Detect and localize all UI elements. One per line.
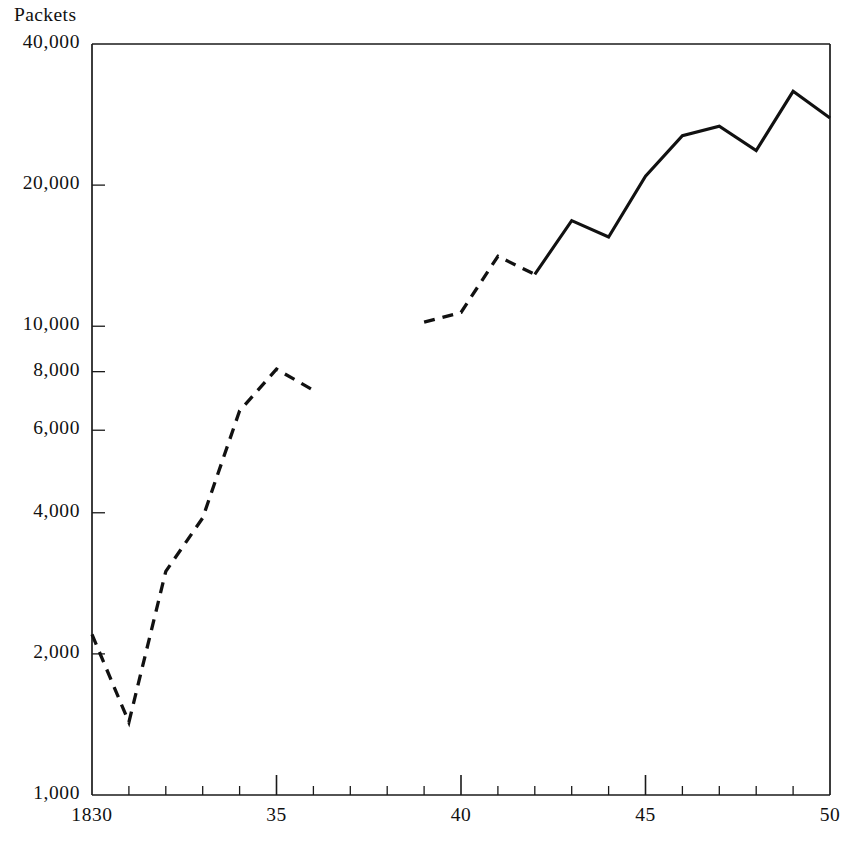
x-axis-ticks	[129, 775, 793, 795]
data-series-line	[535, 91, 830, 274]
data-series-line	[92, 369, 313, 722]
chart-figure: Packets 40,00020,00010,0008,0006,0004,00…	[0, 0, 846, 854]
data-series-group	[92, 91, 830, 722]
y-axis-ticks	[92, 185, 105, 654]
axes-group	[92, 44, 830, 795]
chart-canvas	[0, 0, 846, 854]
data-series-line	[424, 256, 535, 322]
